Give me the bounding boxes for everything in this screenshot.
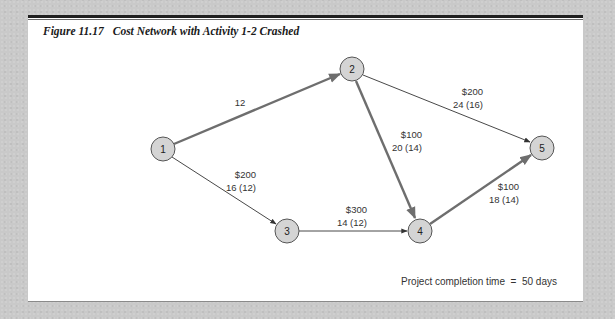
edge-1-2 <box>174 74 340 144</box>
edge-2-4-time: 20 (14) <box>392 142 422 153</box>
edge-1-3-time: 16 (12) <box>226 182 256 193</box>
node-4: 4 <box>408 219 432 243</box>
node-5: 5 <box>530 136 554 160</box>
node-4-label: 4 <box>417 226 423 237</box>
node-2-label: 2 <box>349 64 355 75</box>
edge-1-2-time: 12 <box>235 97 246 108</box>
edge-2-5-cost: $200 <box>462 86 483 97</box>
edge-1-3 <box>172 157 276 224</box>
edge-2-5 <box>363 75 530 142</box>
network-diagram: 12 $200 16 (12) $200 24 (16) $100 20 (14… <box>0 0 615 319</box>
node-1-label: 1 <box>160 144 166 155</box>
node-5-label: 5 <box>539 143 545 154</box>
node-3-label: 3 <box>284 226 290 237</box>
edge-4-5-time: 18 (14) <box>489 194 519 205</box>
edge-2-5-time: 24 (16) <box>453 99 483 110</box>
edge-3-4-cost: $300 <box>346 204 367 215</box>
edge-2-4-cost: $100 <box>401 129 422 140</box>
edge-4-5-cost: $100 <box>498 181 519 192</box>
node-3: 3 <box>275 219 299 243</box>
edge-3-4-time: 14 (12) <box>337 217 367 228</box>
node-1: 1 <box>151 137 175 161</box>
node-2: 2 <box>340 57 364 81</box>
edge-1-3-cost: $200 <box>235 169 256 180</box>
